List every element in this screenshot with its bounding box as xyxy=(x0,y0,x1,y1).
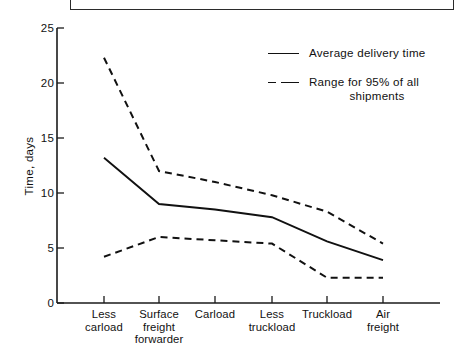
legend-label-average-delivery-time: Average delivery time xyxy=(309,46,426,60)
xtick-line-2: truckload xyxy=(249,321,296,333)
series-average-line xyxy=(104,158,383,260)
legend-item-average-delivery-time: Average delivery time xyxy=(268,46,456,61)
xtick-line-1: Air xyxy=(376,308,390,320)
legend-swatch-solid-line xyxy=(268,47,302,61)
chart-legend: Average delivery time Range for 95% of a… xyxy=(268,46,456,117)
legend-dash-segment-2 xyxy=(281,82,299,83)
xtick-line-3: forwarder xyxy=(135,333,184,345)
legend-line-segment xyxy=(268,53,299,54)
xtick-label-air-freight: Air freight xyxy=(340,308,426,333)
xtick-line-2: freight xyxy=(143,321,175,333)
legend-label-line-1: Range for 95% of all xyxy=(309,75,419,88)
legend-item-range-95-percent: Range for 95% of all shipments xyxy=(268,75,456,103)
legend-dash-segment-1 xyxy=(268,82,276,83)
legend-label-range-95-percent: Range for 95% of all shipments xyxy=(309,75,419,103)
chart-figure: 25 20 15 10 5 0 Time, days Less carload xyxy=(0,0,456,361)
legend-swatch-dashed-line xyxy=(268,76,302,90)
xtick-line-1: Less xyxy=(260,308,284,320)
xtick-line-1: Less xyxy=(92,308,116,320)
xtick-line-2: freight xyxy=(367,321,399,333)
series-lower-range-line xyxy=(104,237,383,278)
legend-label-line-2: shipments xyxy=(309,89,419,103)
